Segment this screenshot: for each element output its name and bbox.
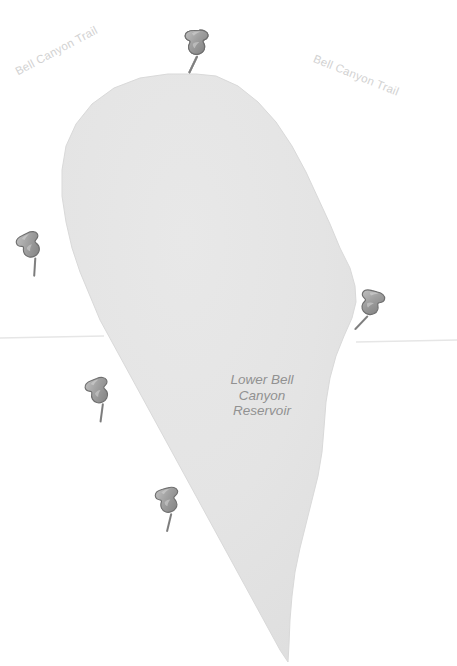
map-pin-marker-icon[interactable] xyxy=(176,24,224,79)
trail-boundary-line-right xyxy=(356,340,457,342)
trail-boundary-line-left xyxy=(0,336,104,338)
map-canvas[interactable]: Bell Canyon Trail Bell Canyon Trail Lowe… xyxy=(0,0,457,666)
